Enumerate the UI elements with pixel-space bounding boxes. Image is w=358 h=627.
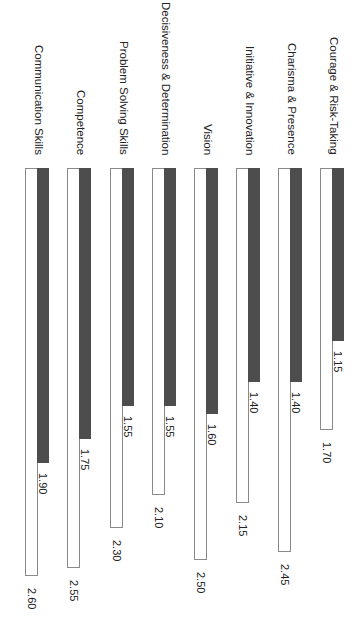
value-label-series-1: 1.75 [79, 449, 91, 470]
value-label-series-1: 1.60 [206, 424, 218, 445]
value-label-series-2: 2.55 [68, 580, 80, 601]
category-label: Charisma & Presence [285, 43, 299, 155]
value-label-series-1: 1.90 [37, 473, 49, 494]
value-label-series-1: 1.55 [122, 416, 134, 437]
bar-series-1 [37, 168, 49, 463]
value-label-series-2: 2.30 [111, 540, 123, 561]
category-label: Vision [201, 124, 215, 155]
bar-series-1 [248, 168, 260, 382]
value-label-series-2: 2.60 [26, 588, 38, 609]
value-label-series-2: 2.15 [237, 515, 249, 536]
value-label-series-2: 1.70 [321, 442, 333, 463]
value-label-series-1: 1.15 [332, 351, 344, 372]
bar-chart: Courage & Risk-Taking1.151.70Charisma & … [0, 0, 358, 627]
value-label-series-2: 2.50 [195, 572, 207, 593]
bar-series-1 [290, 168, 302, 382]
category-label: Competence [74, 90, 88, 155]
value-label-series-1: 1.55 [164, 416, 176, 437]
bar-series-1 [79, 168, 91, 439]
bar-series-1 [332, 168, 344, 341]
category-label: Courage & Risk-Taking [327, 37, 341, 155]
bar-series-1 [206, 168, 218, 414]
value-label-series-1: 1.40 [248, 392, 260, 413]
value-label-series-1: 1.40 [290, 392, 302, 413]
category-label: Initiative & Innovation [243, 46, 257, 155]
bar-series-1 [122, 168, 134, 406]
bar-series-1 [164, 168, 176, 406]
category-label: Decisiveness & Determination [159, 2, 173, 155]
value-label-series-2: 2.45 [279, 564, 291, 585]
category-label: Problem Solving Skills [117, 41, 131, 155]
value-label-series-2: 2.10 [153, 507, 165, 528]
category-label: Communication Skills [32, 45, 46, 155]
